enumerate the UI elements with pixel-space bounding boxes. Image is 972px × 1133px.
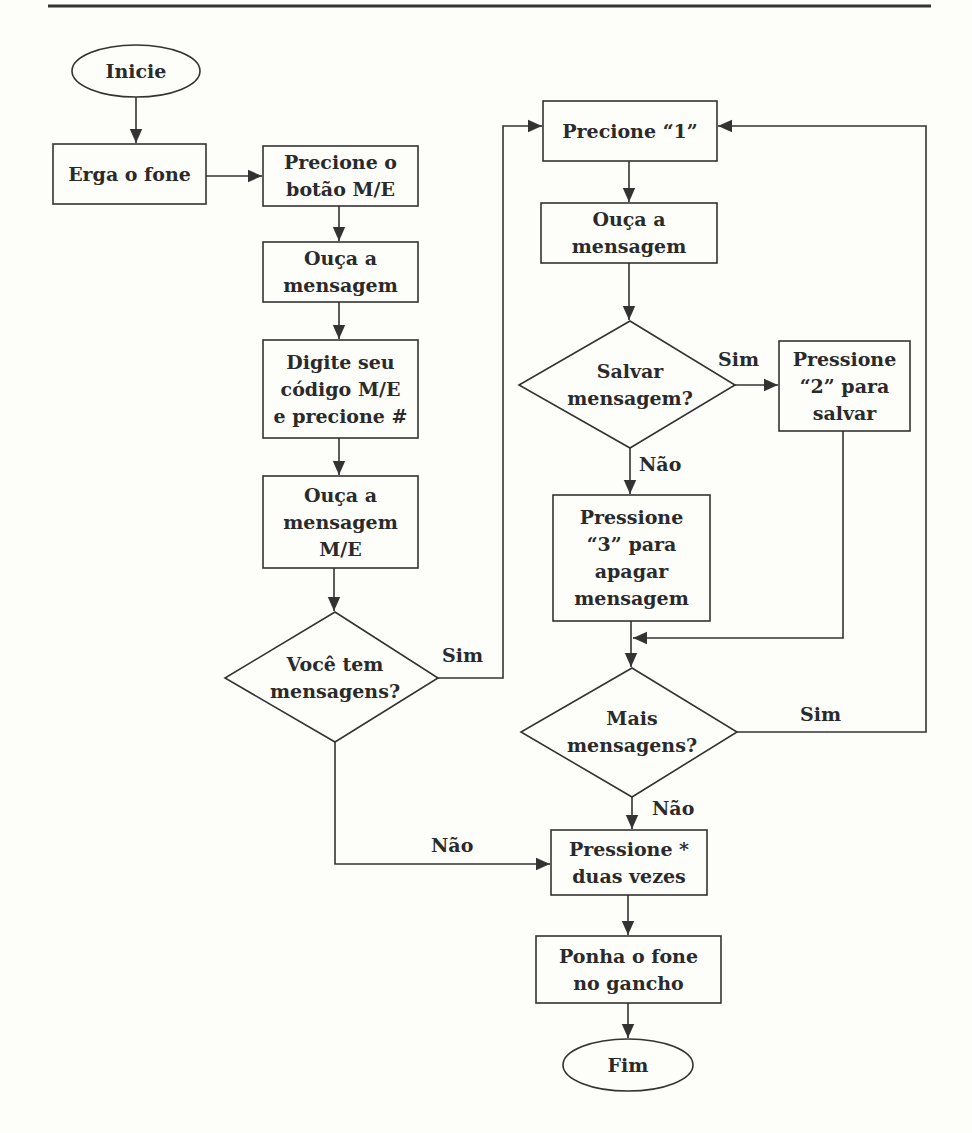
listen1-label: Ouça a mensagem (263, 242, 418, 302)
edge-more-no: Não (652, 797, 694, 819)
more-q-label: Mais mensagens? (537, 702, 727, 762)
edge-save-yes: Sim (718, 348, 759, 370)
start-label: Inicie (72, 45, 200, 97)
lift-label: Erga o fone (53, 144, 206, 204)
press-star-label: Pressione * duas vezes (551, 830, 707, 895)
end-label: Fim (563, 1039, 693, 1091)
press-me-label: Precione o botão M/E (263, 146, 418, 206)
press2-label: Pressione “2” para salvar (779, 341, 910, 431)
press3-label: Pressione “3” para apagar mensagem (553, 495, 710, 621)
press1-label: Precione “1” (543, 101, 717, 161)
edge-more-yes: Sim (800, 703, 841, 725)
listen-me-label: Ouça a mensagem M/E (263, 476, 418, 568)
edge-save-no: Não (639, 453, 681, 475)
edge-have-no: Não (431, 834, 473, 856)
code-label: Digite seu código M/E e precione # (263, 340, 418, 438)
edge-have-yes: Sim (442, 644, 483, 666)
listen2-label: Ouça a mensagem (541, 203, 717, 263)
save-q-label: Salvar mensagem? (535, 355, 725, 415)
have-msgs-label: Você tem mensagens? (240, 648, 430, 708)
hangup-label: Ponha o fone no gancho (536, 936, 721, 1003)
